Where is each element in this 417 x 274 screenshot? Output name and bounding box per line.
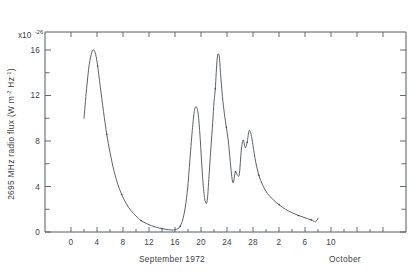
data-point-marker <box>246 141 248 143</box>
x-tick-label-oct-6: 6 <box>303 238 308 247</box>
data-point-marker <box>235 171 237 173</box>
y-tick-labels: 0 4 8 12 16 <box>30 46 40 237</box>
y-axis-ticks <box>45 50 51 232</box>
x-tick-label-sep-24: 24 <box>222 238 232 247</box>
x-tick-label-sep-8: 8 <box>121 238 126 247</box>
chart-svg: 0 4 8 12 16 0 4 8 12 16 20 24 28 2 6 10 … <box>0 0 417 274</box>
y-axis-multiplier: x10 -26 <box>18 29 43 41</box>
x-tick-label-sep-16: 16 <box>170 238 180 247</box>
data-point-marker <box>121 194 123 196</box>
flux-curve <box>84 50 318 230</box>
y-tick-label-4: 4 <box>35 183 40 192</box>
data-point-marker <box>311 219 313 221</box>
x-tick-label-sep-12: 12 <box>144 238 154 247</box>
chart-figure: 0 4 8 12 16 0 4 8 12 16 20 24 28 2 6 10 … <box>0 0 417 274</box>
y-multiplier-base: x10 <box>18 31 32 40</box>
x-tick-label-sep-4: 4 <box>95 238 100 247</box>
x-tick-label-sep-0: 0 <box>69 238 74 247</box>
x-tick-label-oct-2: 2 <box>277 238 282 247</box>
data-point-marker <box>215 88 217 90</box>
x-tick-label-sep-20: 20 <box>196 238 206 247</box>
svg-text:2695 MHz radio flux (W m-2 Hz: 2695 MHz radio flux (W m-2 Hz-1) <box>6 68 16 200</box>
y-axis-title-mid: Hz <box>6 77 16 90</box>
x-tick-label-oct-10: 10 <box>326 238 336 247</box>
data-point-marker <box>278 204 280 206</box>
y-tick-label-16: 16 <box>30 46 40 55</box>
x-tick-labels: 0 4 8 12 16 20 24 28 2 6 10 <box>69 238 336 247</box>
plot-frame <box>45 32 406 232</box>
y-tick-label-12: 12 <box>30 91 40 100</box>
y-axis-title: 2695 MHz radio flux (W m-2 Hz-1) <box>6 68 16 200</box>
y-tick-label-8: 8 <box>35 137 40 146</box>
x-axis-ticks-bottom <box>71 227 383 232</box>
y-tick-label-0: 0 <box>35 228 40 237</box>
x-axis-label-september: September 1972 <box>139 254 205 264</box>
x-tick-label-sep-28: 28 <box>248 238 258 247</box>
y-axis-ticks-right <box>400 50 406 232</box>
data-point-marker <box>106 133 108 135</box>
y-multiplier-exponent: -26 <box>35 29 43 35</box>
y-axis-title-prefix: 2695 MHz radio flux (W m <box>6 96 16 200</box>
data-point-marker <box>179 226 181 228</box>
data-point-marker <box>97 65 99 67</box>
data-point-marker <box>161 228 163 230</box>
x-axis-ticks-top <box>71 32 383 37</box>
x-axis-label-october: October <box>329 254 361 264</box>
data-point-marker <box>140 220 142 222</box>
y-axis-title-suffix: ) <box>6 68 16 71</box>
data-point-marker <box>226 127 228 129</box>
flux-data-markers <box>97 65 312 229</box>
data-point-marker <box>258 174 260 176</box>
data-point-marker <box>298 215 300 217</box>
